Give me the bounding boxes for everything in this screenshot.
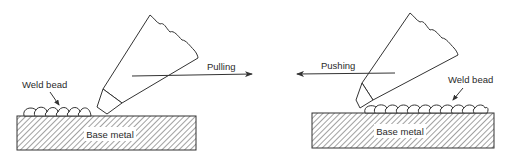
panel-pushing: Base metal Weld bead Pushing [297,13,494,148]
panel-pulling: Base metal Weld bead Pulling [17,15,252,150]
weld-bead-label-right: Weld bead [448,74,493,85]
weld-bead-right [365,105,488,113]
weld-bead-pointer-left [50,92,59,105]
pushing-label: Pushing [321,60,355,71]
torch-left [97,15,198,114]
base-metal-left: Base metal [17,116,196,150]
base-metal-right: Base metal [312,113,494,148]
torch-right [356,13,458,108]
base-metal-label: Base metal [376,126,424,137]
pulling-label: Pulling [207,61,236,72]
base-metal-label: Base metal [86,129,134,140]
weld-bead-label-left: Weld bead [22,79,67,90]
weld-bead-pointer-right [453,88,463,100]
welding-direction-diagram: Base metal Weld bead Pulling Base metal [0,0,512,159]
weld-bead-left [24,107,91,116]
